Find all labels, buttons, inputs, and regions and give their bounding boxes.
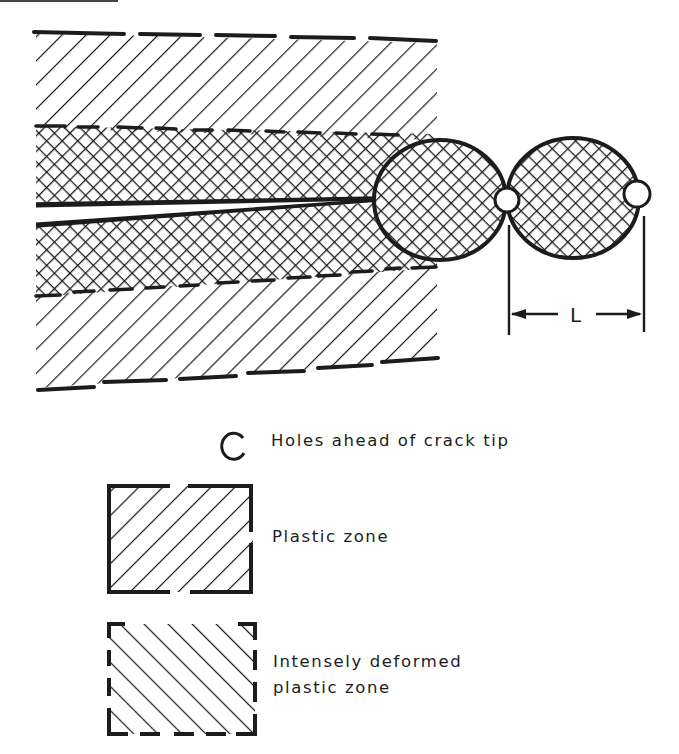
single-hatch-box-icon — [109, 486, 253, 592]
dimension-L-label: L — [570, 303, 582, 327]
crack-tip-plastic-zone-diagram: L — [0, 0, 679, 754]
intense-hatch-box-icon — [109, 624, 255, 734]
legend-label-intense-line2: plastic zone — [273, 678, 391, 699]
legend-label-intense-line1: Intensely deformed — [273, 652, 462, 673]
hole-2-icon — [624, 181, 650, 207]
crack-tip-deformed-zone — [374, 140, 506, 260]
open-circle-icon — [222, 433, 244, 459]
upper-plastic-zone — [34, 32, 437, 140]
legend-label-plastic-zone: Plastic zone — [272, 527, 389, 548]
ligament-deformed-zone — [507, 138, 639, 258]
legend-label-holes: Holes ahead of crack tip — [271, 431, 510, 452]
clipped-caption-fragment — [0, 0, 118, 2]
hole-1-icon — [495, 188, 519, 212]
